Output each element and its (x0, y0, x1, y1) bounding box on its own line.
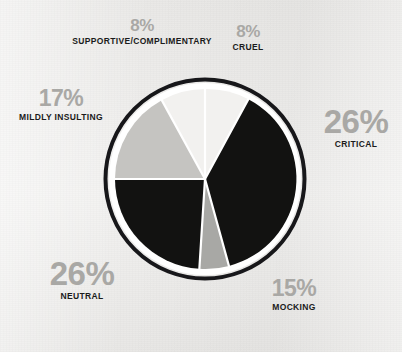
pie-label-critical-category: CRITICAL (310, 140, 402, 149)
pie-label-mocking: 15% MOCKING (240, 278, 348, 311)
pie-label-mildly-insulting-category: MILDLY INSULTING (2, 113, 120, 122)
pie-label-mocking-percent: 15% (240, 278, 348, 300)
pie-label-mildly-insulting-percent: 17% (2, 88, 120, 110)
pie-label-critical: 26% CRITICAL (310, 106, 402, 149)
pie-label-neutral-category: NEUTRAL (22, 292, 142, 301)
pie-svg (103, 77, 307, 281)
pie-label-cruel-percent: 8% (205, 24, 291, 40)
pie-chart-figure: 8% SUPPORTIVE/COMPLIMENTARY 8% CRUEL 26%… (0, 0, 402, 352)
pie-label-mocking-category: MOCKING (240, 303, 348, 312)
pie-label-neutral: 26% NEUTRAL (22, 258, 142, 301)
pie-label-cruel-category: CRUEL (205, 43, 291, 52)
pie-label-cruel: 8% CRUEL (205, 24, 291, 52)
pie-label-mildly-insulting: 17% MILDLY INSULTING (2, 88, 120, 121)
pie-slice-neutral[interactable] (115, 179, 205, 269)
pie-label-neutral-percent: 26% (22, 258, 142, 289)
pie-label-critical-percent: 26% (310, 106, 402, 137)
pie-chart-graphic (103, 77, 307, 281)
